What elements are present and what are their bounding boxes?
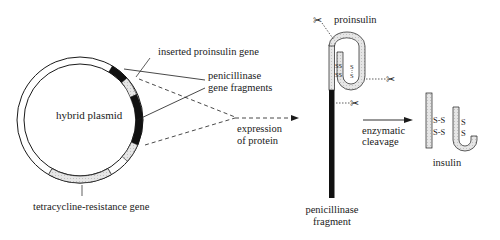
diagram-canvas: hybrid plasmid inserted proinsulin gene …: [0, 0, 500, 240]
insulin-bond-2: S-S: [433, 127, 446, 137]
ss-bond-label-1: SS: [335, 62, 343, 69]
insulin-label: insulin: [433, 157, 462, 168]
penicillinase-gene-fragments-label-1: penicillinase: [208, 70, 261, 81]
penicillinase-fragment-label-1: penicillinase: [305, 204, 358, 215]
expression-label-1: expression: [237, 123, 283, 134]
penicillinase-fragment-label-2: fragment: [313, 216, 351, 227]
expression-label-2: of protein: [237, 135, 279, 146]
hybrid-plasmid: hybrid plasmid: [17, 57, 143, 183]
proinsulin-stem: [329, 45, 335, 90]
tetracycline-resistance-segment: [49, 169, 112, 184]
ss-bond-label-2: SS: [335, 71, 343, 78]
insulin-a-chain: [426, 93, 432, 148]
plasmid-hatched-segment: [122, 142, 138, 161]
cleavage-label-2: cleavage: [362, 136, 399, 147]
insulin-s-bottom: S: [461, 128, 466, 138]
s-label-top: S: [350, 63, 354, 70]
penicillinase-gene-fragments-label-2: gene fragments: [208, 82, 272, 93]
scissors-icon: ✂: [350, 97, 359, 109]
scissors-icon: ✂: [313, 14, 322, 26]
penicillinase-fragment-bar: [329, 90, 335, 198]
tetracycline-resistance-label: tetracycline-resistance gene: [33, 201, 150, 212]
fusion-protein: SS SS S S: [329, 32, 365, 198]
insulin-s-top: S: [461, 117, 466, 127]
insulin-bond-1: S-S: [433, 115, 446, 125]
cleavage-arrowhead: [404, 117, 413, 123]
scissors-icon: ✂: [386, 73, 395, 85]
expression-arrowhead: [291, 115, 299, 121]
insulin-molecule: S-S S-S S S: [426, 93, 477, 151]
plasmid-label: hybrid plasmid: [56, 109, 123, 121]
proinsulin-label: proinsulin: [334, 14, 377, 25]
s-label-bottom: S: [350, 72, 354, 79]
cleavage-label-1: enzymatic: [362, 125, 405, 136]
inserted-proinsulin-gene-label: inserted proinsulin gene: [158, 46, 259, 57]
